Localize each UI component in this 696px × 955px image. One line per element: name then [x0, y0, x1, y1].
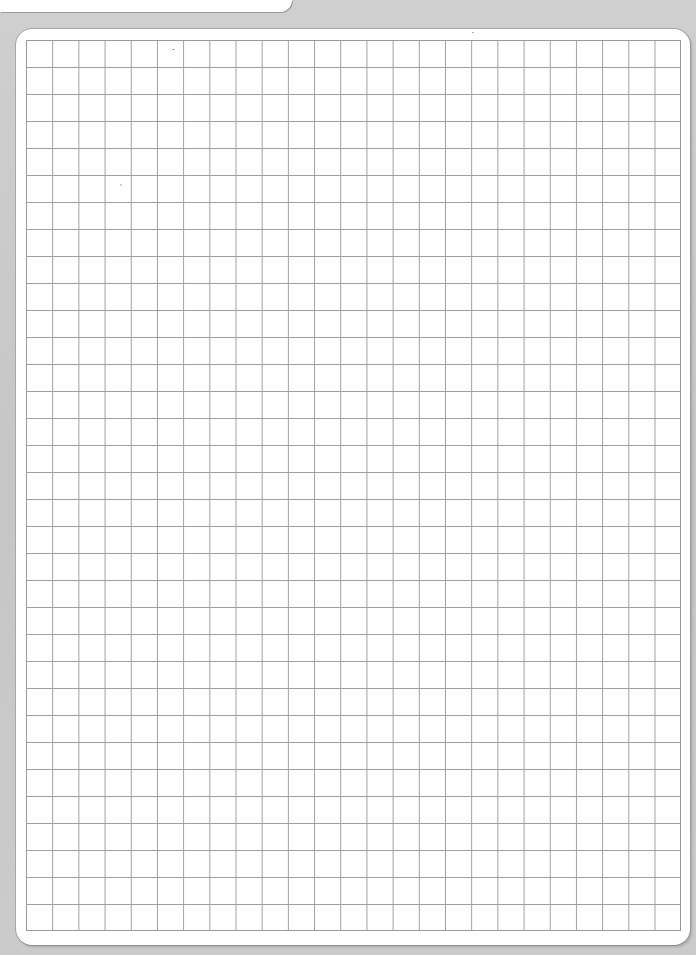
- scan-speck: [172, 49, 175, 50]
- scan-speck: [472, 32, 474, 33]
- grid-area: [26, 40, 681, 931]
- top-tab-sheet-edge: [0, 0, 292, 12]
- scan-speck: [120, 184, 122, 186]
